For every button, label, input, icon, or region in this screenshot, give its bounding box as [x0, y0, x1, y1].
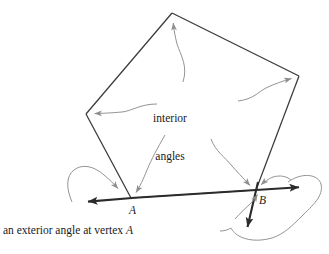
interior-angles-line1: interior: [153, 112, 187, 125]
curved-arrow-exterior-a-icon: [68, 166, 118, 202]
leader-to-apex-icon: [173, 23, 185, 82]
vertex-a-label: A: [129, 204, 136, 217]
geometry-figure: interior angles A B an exterior angle at…: [0, 0, 329, 254]
exterior-angle-b-swoosh: [220, 175, 321, 240]
figure-caption: an exterior angle at vertex A: [3, 224, 133, 237]
polygon-edge-a-left: [86, 114, 131, 198]
curved-arrow-exterior-b-icon: [261, 176, 291, 185]
polygon-edge-right-b: [256, 76, 299, 190]
polygon-edge-apex-right: [172, 13, 299, 76]
interior-angles-line2: angles: [153, 150, 187, 163]
vertex-b-label: B: [259, 194, 266, 207]
loop-outline-b: [231, 175, 321, 240]
leader-to-vertex-b-icon: [211, 139, 250, 186]
exterior-ray-a-left: [88, 198, 132, 202]
leader-to-right-vertex-icon: [238, 79, 292, 102]
interior-angles-label: interior angles: [153, 86, 187, 189]
leader-to-left-vertex-icon: [95, 104, 158, 114]
exterior-ray-b-right: [256, 187, 299, 190]
caption-text: an exterior angle at vertex: [3, 224, 126, 236]
loop-tail-b: [220, 228, 231, 231]
polygon-outline: [86, 13, 299, 198]
exterior-rays: [88, 182, 299, 227]
interior-angle-leaders: [95, 23, 292, 193]
caption-vertex-letter: A: [126, 224, 133, 236]
exterior-angle-a-swoosh: [68, 166, 118, 202]
segment-a-to-b-thick: [131, 190, 256, 198]
